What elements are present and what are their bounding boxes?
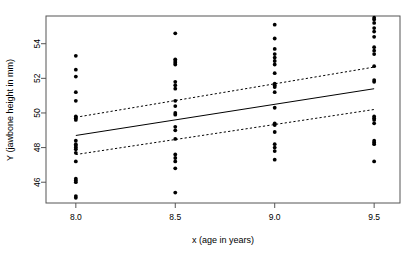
data-point [74, 54, 78, 58]
data-point [273, 56, 277, 60]
data-point [74, 99, 78, 103]
data-point [173, 104, 177, 108]
x-tick-label: 8.5 [169, 212, 181, 222]
data-point [372, 30, 376, 34]
data-point [273, 59, 277, 63]
data-point [173, 125, 177, 129]
data-point [74, 139, 78, 143]
data-point [173, 128, 177, 132]
x-axis-title: x (age in years) [192, 235, 254, 245]
x-tick-label: 9.0 [269, 212, 281, 222]
data-point [273, 47, 277, 51]
data-point [74, 160, 78, 164]
data-point [372, 21, 376, 25]
data-point [173, 63, 177, 67]
data-point [273, 142, 277, 146]
data-point [273, 130, 277, 134]
data-point [273, 37, 277, 41]
y-tick-label: 54 [32, 39, 42, 49]
data-point [273, 146, 277, 150]
data-point [74, 151, 78, 155]
data-point [273, 106, 277, 110]
data-point [372, 49, 376, 53]
data-point [372, 160, 376, 164]
data-point [173, 83, 177, 87]
data-point [273, 52, 277, 56]
data-point [372, 18, 376, 22]
data-point [372, 45, 376, 49]
data-point [273, 71, 277, 75]
figure-background [0, 0, 410, 257]
scatter-plot-figure: 8.08.59.09.5 4648505254 x (age in years)… [0, 0, 410, 257]
y-tick-label: 50 [32, 108, 42, 118]
x-tick-label: 9.5 [368, 212, 380, 222]
data-point [273, 158, 277, 162]
data-point [74, 90, 78, 94]
data-point [273, 85, 277, 89]
data-point [372, 118, 376, 122]
data-point [173, 153, 177, 157]
data-point [372, 80, 376, 84]
data-point [173, 99, 177, 103]
data-point [173, 137, 177, 141]
y-tick-label: 48 [32, 143, 42, 153]
y-axis-title: Y (jawbone height in mm) [5, 59, 15, 161]
data-point [173, 80, 177, 84]
y-tick-label: 52 [32, 73, 42, 83]
data-point [173, 166, 177, 170]
data-point [74, 75, 78, 79]
data-point [372, 142, 376, 146]
data-point [173, 160, 177, 164]
plot-canvas: 8.08.59.09.5 4648505254 x (age in years)… [0, 0, 410, 257]
data-point [273, 23, 277, 27]
data-point [273, 123, 277, 127]
data-point [173, 191, 177, 195]
data-point [173, 87, 177, 91]
data-point [74, 147, 78, 151]
data-point [74, 118, 78, 122]
data-point [74, 180, 78, 184]
data-point [372, 52, 376, 56]
data-point [173, 113, 177, 117]
data-point [273, 63, 277, 67]
data-point [74, 68, 78, 72]
data-point [173, 156, 177, 160]
data-point [74, 196, 78, 200]
x-tick-label: 8.0 [70, 212, 82, 222]
data-point [372, 64, 376, 68]
data-point [372, 121, 376, 125]
y-tick-label: 46 [32, 177, 42, 187]
data-point [372, 35, 376, 39]
data-point [273, 149, 277, 153]
data-point [273, 90, 277, 94]
data-point [372, 26, 376, 30]
data-point [173, 31, 177, 35]
